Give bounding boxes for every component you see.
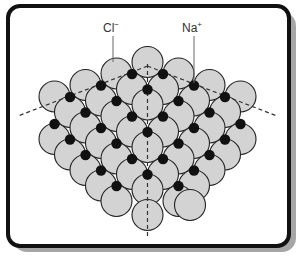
- sodium-ion: [158, 154, 168, 164]
- sodium-ion: [142, 127, 152, 137]
- nacl-lattice-diagram: [0, 0, 301, 256]
- sodium-ion: [220, 134, 230, 144]
- sodium-ion: [65, 134, 75, 144]
- sodium-ion: [96, 165, 106, 175]
- sodium-ion: [49, 119, 59, 129]
- sodium-ion: [127, 111, 137, 121]
- chloride-ion: [175, 190, 206, 221]
- sodium-label: Na+: [182, 20, 202, 35]
- sodium-ion: [158, 111, 168, 121]
- sodium-ion: [80, 150, 90, 160]
- sodium-ion: [111, 138, 121, 148]
- sodium-ion: [111, 96, 121, 106]
- sodium-ion: [80, 107, 90, 117]
- sodium-ion: [96, 123, 106, 133]
- sodium-ion: [142, 169, 152, 179]
- sodium-ion: [189, 165, 199, 175]
- sodium-ion: [111, 181, 121, 191]
- sodium-ion: [204, 107, 214, 117]
- sodium-ion: [127, 154, 137, 164]
- sodium-ion: [65, 92, 75, 102]
- sodium-ion: [127, 69, 137, 79]
- sodium-ion: [158, 69, 168, 79]
- sodium-ion: [173, 181, 183, 191]
- chloride-label: Cl−: [103, 20, 119, 35]
- sodium-ion: [173, 138, 183, 148]
- sodium-ion: [142, 84, 152, 94]
- sodium-ion: [173, 96, 183, 106]
- sodium-ion: [235, 119, 245, 129]
- sodium-ion: [220, 92, 230, 102]
- sodium-ion: [96, 80, 106, 90]
- sodium-ion: [189, 123, 199, 133]
- sodium-ion: [204, 150, 214, 160]
